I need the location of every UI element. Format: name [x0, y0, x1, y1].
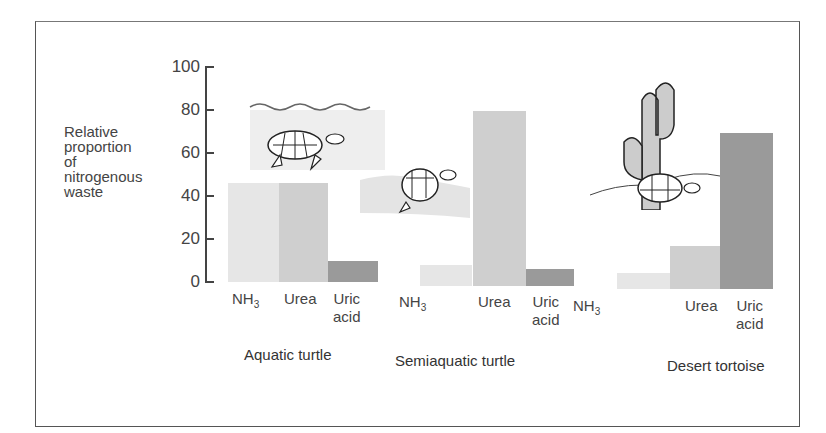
tick-label: 80 [150, 100, 200, 120]
cat-urea: Urea [478, 293, 511, 311]
tick-label: 40 [150, 186, 200, 206]
group-label-desert: Desert tortoise [667, 357, 765, 374]
tick-label: 0 [150, 272, 200, 292]
bar-semiaquatic-uric [526, 269, 574, 286]
ylabel-line: nitrogenous [64, 169, 142, 184]
tick-label: 20 [150, 229, 200, 249]
bar-desert-nh3 [617, 273, 670, 289]
y-axis [205, 67, 207, 283]
bar-aquatic-nh3 [228, 183, 279, 282]
ylabel-line: proportion [64, 139, 142, 154]
cat-urea: Urea [685, 297, 718, 315]
tick-label: 100 [150, 57, 200, 77]
group-label-semiaquatic: Semiaquatic turtle [395, 352, 515, 369]
tick [205, 281, 214, 283]
cat-uric: Uricacid [333, 290, 361, 326]
bar-semiaquatic-nh3 [420, 265, 472, 286]
bar-aquatic-uric [328, 261, 378, 282]
ylabel-line: of [64, 154, 142, 169]
cat-uric: Uricacid [736, 297, 764, 333]
cat-nh3: NH3 [232, 290, 259, 314]
y-axis-label: Relative proportion of nitrogenous waste [64, 124, 142, 199]
bar-semiaquatic-urea [473, 111, 526, 286]
tick-label: 60 [150, 143, 200, 163]
group-label-aquatic: Aquatic turtle [244, 346, 332, 363]
bar-desert-urea [670, 246, 720, 289]
desert-tortoise-illustration [590, 70, 720, 210]
tick [205, 66, 214, 68]
cat-nh3: NH3 [399, 293, 426, 317]
bar-aquatic-urea [279, 183, 328, 282]
tick [205, 195, 214, 197]
cat-urea: Urea [284, 290, 317, 308]
cat-uric: Uricacid [532, 293, 560, 329]
tick [205, 238, 214, 240]
semiaquatic-turtle-illustration [360, 160, 475, 225]
cat-nh3: NH3 [573, 297, 600, 321]
ylabel-line: waste [64, 184, 142, 199]
ylabel-line: Relative [64, 124, 142, 139]
bar-desert-uric [720, 133, 773, 289]
tick [205, 152, 214, 154]
tick [205, 109, 214, 111]
